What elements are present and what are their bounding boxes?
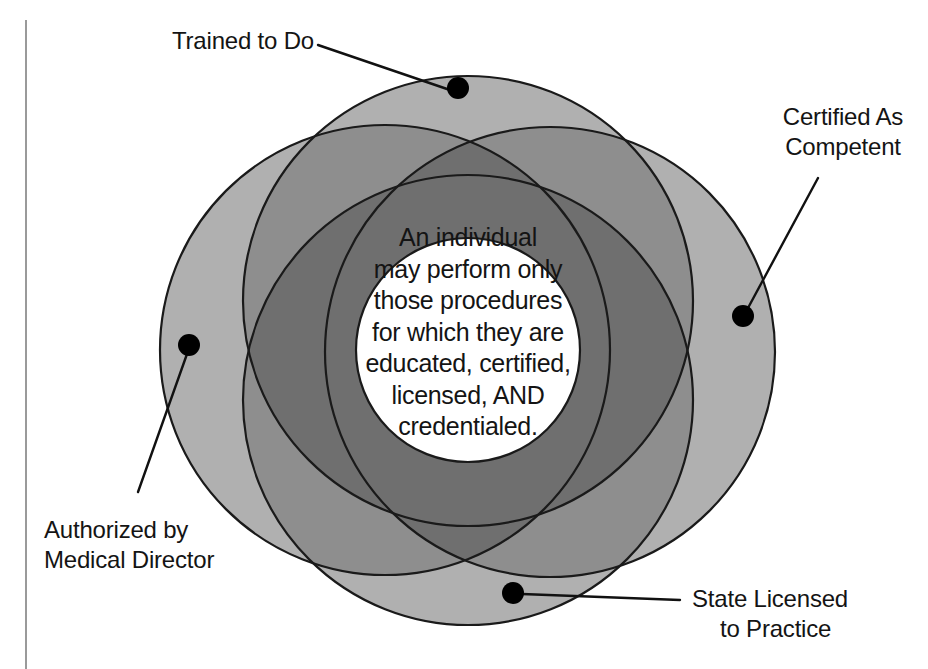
label-state-licensed-to-practice-line1: State Licensed bbox=[692, 585, 848, 612]
label-trained-to-do: Trained to Do bbox=[172, 26, 314, 56]
center-intersection-circle bbox=[356, 238, 580, 462]
leader-line-trained-to-do bbox=[318, 45, 450, 90]
dot-certified-as-competent bbox=[732, 305, 754, 327]
label-trained-to-do-line1: Trained to Do bbox=[172, 27, 314, 54]
label-state-licensed-to-practice: State Licensed to Practice bbox=[692, 584, 848, 644]
dot-trained-to-do bbox=[447, 77, 469, 99]
leader-line-certified-as-competent bbox=[748, 178, 818, 308]
label-state-licensed-to-practice-line2: to Practice bbox=[692, 614, 848, 644]
dot-authorized-by-medical-director bbox=[178, 334, 200, 356]
label-certified-as-competent: Certified As Competent bbox=[770, 102, 916, 162]
dot-state-licensed-to-practice bbox=[502, 582, 524, 604]
label-certified-as-competent-line1: Certified As bbox=[783, 103, 903, 130]
label-authorized-by-medical-director: Authorized by Medical Director bbox=[44, 515, 214, 575]
label-certified-as-competent-line2: Competent bbox=[770, 132, 916, 162]
label-authorized-by-medical-director-line1: Authorized by bbox=[44, 516, 188, 543]
diagram-page: Trained to Do Certified As Competent Aut… bbox=[0, 0, 928, 669]
label-authorized-by-medical-director-line2: Medical Director bbox=[44, 545, 214, 575]
